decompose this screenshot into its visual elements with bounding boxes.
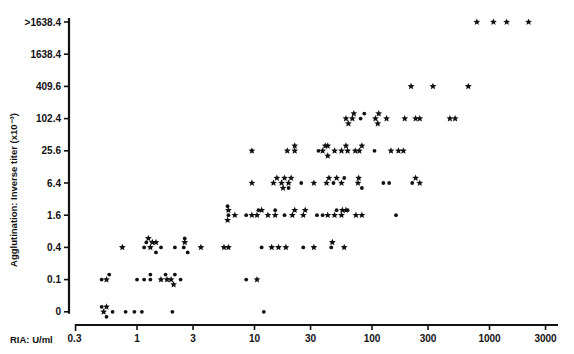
data-point-dot [142, 246, 146, 250]
y-tick-label: 25.6 [42, 145, 62, 156]
data-point-dot [173, 246, 177, 250]
data-point-dot [164, 273, 168, 277]
data-point-star [270, 179, 277, 186]
data-point-dot [144, 241, 148, 245]
data-point-star [331, 147, 338, 154]
data-point-star [231, 212, 238, 219]
data-points [100, 18, 532, 318]
data-point-star [224, 217, 231, 224]
data-point-dot [387, 181, 391, 185]
data-point-star [119, 244, 126, 251]
data-point-star [350, 110, 357, 117]
data-point-dot [182, 246, 186, 250]
data-point-star [374, 120, 381, 127]
data-point-star [324, 212, 331, 219]
data-point-dot [244, 278, 248, 282]
data-point-star [446, 115, 453, 122]
data-point-star [272, 212, 279, 219]
x-tick-label: 300 [420, 333, 437, 344]
data-point-dot [124, 310, 128, 314]
data-point-dot [299, 181, 303, 185]
x-tick-label: 10 [249, 333, 261, 344]
data-point-star [401, 115, 408, 122]
data-point-dot [260, 246, 264, 250]
data-point-star [198, 244, 205, 251]
data-point-star [145, 235, 152, 242]
data-point-dot [359, 117, 363, 121]
data-point-dot [154, 251, 158, 255]
data-point-dot [283, 213, 287, 217]
y-tick-label: >1638.4 [25, 17, 62, 28]
data-point-star [258, 207, 265, 214]
y-tick-label: 1638.4 [30, 49, 61, 60]
data-point-star [338, 179, 345, 186]
data-point-dot [100, 278, 104, 282]
data-point-star [248, 179, 255, 186]
data-point-star [383, 115, 390, 122]
data-point-dot [135, 278, 139, 282]
x-tick-label: 3000 [534, 333, 557, 344]
data-point-star [333, 174, 340, 181]
x-tick-label: 1 [134, 333, 140, 344]
data-point-star [225, 244, 232, 251]
scatter-chart: 00.10.41.66.425.6102.4409.61638.4>1638.4… [0, 0, 574, 354]
data-point-dot [140, 310, 144, 314]
x-axis-title: RIA: U/ml [10, 334, 53, 345]
data-point-star [525, 18, 532, 25]
data-point-dot [287, 186, 291, 190]
data-point-star [343, 142, 350, 149]
data-point-star [473, 18, 480, 25]
data-point-dot [332, 181, 336, 185]
data-point-star [430, 83, 437, 90]
y-axis: 00.10.41.66.425.6102.4409.61638.4>1638.4 [25, 17, 69, 318]
y-tick-label: 409.6 [36, 81, 61, 92]
y-tick-label: 102.4 [36, 113, 61, 124]
data-point-dot [159, 246, 163, 250]
data-point-dot [362, 112, 366, 116]
data-point-dot [315, 213, 319, 217]
data-point-dot [342, 176, 346, 180]
data-point-star [324, 152, 331, 159]
data-point-dot [346, 208, 350, 212]
data-point-star [158, 276, 165, 283]
data-point-star [254, 212, 261, 219]
data-point-dot [111, 310, 115, 314]
data-point-dot [262, 310, 266, 314]
data-point-star [331, 212, 338, 219]
data-point-star [284, 147, 291, 154]
data-point-star [278, 179, 285, 186]
y-axis-title: Agglutination: Inverse titer (x10⁻³) [8, 113, 19, 267]
y-tick-label: 0 [55, 306, 61, 317]
data-point-star [412, 174, 419, 181]
data-point-star [275, 244, 282, 251]
data-point-dot [105, 315, 109, 319]
data-point-star [273, 174, 280, 181]
x-tick-label: 3 [190, 333, 196, 344]
x-tick-label: 100 [364, 333, 381, 344]
data-point-dot [381, 181, 385, 185]
data-point-dot [329, 246, 333, 250]
data-point-dot [335, 208, 339, 212]
data-point-dot [100, 305, 104, 309]
data-point-star [100, 308, 107, 315]
x-tick-label: 1000 [478, 333, 501, 344]
data-point-star [353, 212, 360, 219]
data-point-star [248, 147, 255, 154]
data-point-dot [148, 273, 152, 277]
data-point-star [388, 147, 395, 154]
data-point-star [170, 281, 177, 288]
data-point-dot [410, 181, 414, 185]
x-tick-label: 0.3 [68, 333, 82, 344]
data-point-star [465, 83, 472, 90]
data-point-star [341, 244, 348, 251]
data-point-star [355, 174, 362, 181]
data-point-dot [107, 273, 111, 277]
data-point-star [291, 147, 298, 154]
data-point-dot [360, 186, 364, 190]
data-point-star [280, 184, 287, 191]
data-point-dot [321, 213, 325, 217]
data-point-star [248, 212, 255, 219]
data-point-dot [183, 237, 187, 241]
data-point-dot [179, 278, 183, 282]
data-point-star [323, 179, 330, 186]
